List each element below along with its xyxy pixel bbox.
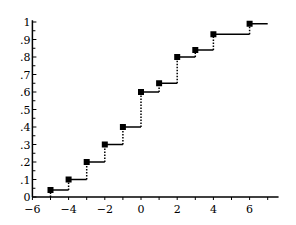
y-tick-label: .6 — [20, 86, 31, 99]
data-point-marker — [210, 31, 216, 37]
data-point-marker — [84, 159, 90, 165]
x-tick-label: 6 — [246, 203, 253, 216]
y-tick-label: .4 — [20, 121, 31, 134]
data-point-marker — [192, 47, 198, 53]
data-point-marker — [247, 21, 253, 27]
x-tick-label: −4 — [60, 203, 76, 216]
y-tick-label: .5 — [20, 104, 31, 117]
y-tick-label: 1 — [23, 16, 30, 29]
data-point-marker — [120, 124, 126, 130]
data-point-marker — [156, 80, 162, 86]
x-tick-label: −2 — [97, 203, 113, 216]
data-point-marker — [138, 89, 144, 95]
y-tick-label: .9 — [20, 34, 31, 47]
y-tick-label: .1 — [20, 174, 31, 187]
data-point-marker — [48, 187, 54, 193]
data-point-marker — [174, 54, 180, 60]
y-tick-label: .2 — [20, 156, 31, 169]
x-tick-label: 0 — [138, 203, 145, 216]
step-series — [48, 21, 268, 197]
tick-labels: −6−4−202460.1.2.3.4.5.6.7.8.91 — [20, 16, 253, 216]
y-tick-label: 0 — [23, 191, 30, 204]
y-tick-label: .8 — [20, 51, 31, 64]
x-tick-label: 2 — [174, 203, 181, 216]
y-tick-label: .3 — [20, 139, 31, 152]
y-tick-label: .7 — [20, 69, 31, 82]
step-chart: −6−4−202460.1.2.3.4.5.6.7.8.91 — [0, 0, 296, 225]
x-tick-label: 4 — [210, 203, 217, 216]
axes — [32, 20, 278, 200]
data-point-marker — [102, 142, 108, 148]
data-point-marker — [66, 177, 72, 183]
x-tick-label: −6 — [24, 203, 40, 216]
